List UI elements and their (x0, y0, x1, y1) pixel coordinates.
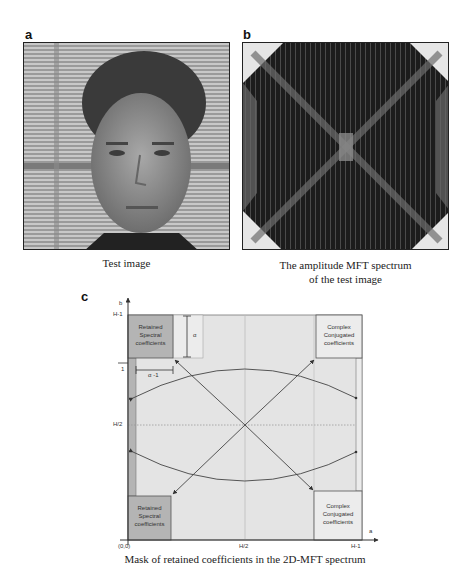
box-bottom-right-conjugated (314, 491, 362, 540)
caption-line-1: The amplitude MFT spectrum (242, 258, 449, 272)
face-photo-placeholder (24, 43, 230, 250)
mask-diagram (0, 290, 464, 555)
box-top-left-retained (128, 315, 173, 358)
test-image-photo (23, 42, 230, 250)
panel-label-a: a (25, 27, 32, 42)
box-bottom-left-retained (128, 496, 171, 540)
panel-label-b: b (243, 27, 251, 42)
retained-strip-left (128, 358, 136, 496)
mft-spectrum-image (242, 42, 449, 250)
caption-mask: Mask of retained coefficients in the 2D-… (60, 552, 430, 566)
box-top-right-conjugated (316, 315, 362, 358)
spectrum-placeholder (243, 43, 449, 250)
caption-line-2: of the test image (242, 272, 449, 286)
caption-test-image: Test image (23, 256, 230, 270)
conjugated-strip-right (356, 358, 362, 491)
caption-mft-spectrum: The amplitude MFT spectrum of the test i… (242, 258, 449, 286)
